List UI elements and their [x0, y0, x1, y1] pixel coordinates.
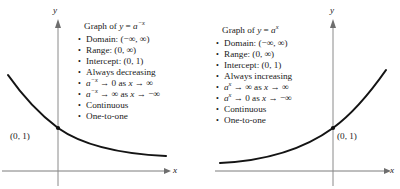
property-text: Domain: (−∞, ∞) — [86, 34, 149, 44]
list-item: •One-to-one — [78, 111, 160, 122]
bullet-icon: • — [216, 60, 219, 71]
y-axis-arrow-left — [55, 19, 61, 28]
list-item: •Domain: (−∞, ∞) — [78, 34, 160, 45]
property-text: Range: (0, ∞) — [224, 49, 274, 59]
bullet-icon: • — [216, 38, 219, 49]
panel-title-right: Graph of y = ax — [222, 25, 292, 36]
list-item: •ax → 0 as x → −∞ — [216, 93, 292, 104]
list-item: •Intercept: (0, 1) — [216, 60, 292, 71]
panel-title-left: Graph of y = a−x — [84, 21, 160, 32]
info-block-left: Graph of y = a−x •Domain: (−∞, ∞) •Range… — [78, 21, 160, 122]
panel-title-exp-right: x — [276, 23, 279, 30]
property-exp: −x — [91, 75, 98, 82]
bullet-icon: • — [216, 93, 219, 104]
bullet-icon: • — [78, 67, 81, 78]
property-text: Intercept: (0, 1) — [86, 56, 143, 66]
property-tail: → ∞ — [132, 78, 152, 88]
property-tail: → −∞ — [134, 89, 160, 99]
x-axis-label-right: x — [390, 165, 394, 175]
x-axis-label-left: x — [173, 165, 177, 175]
y-axis-label-right: y — [330, 5, 334, 15]
list-item: •Continuous — [78, 100, 160, 111]
panel-title-prefix-right: Graph of — [222, 25, 257, 35]
list-item: •Always increasing — [216, 71, 292, 82]
intercept-label-left: (0, 1) — [10, 131, 30, 141]
bullet-icon: • — [216, 82, 219, 93]
property-text: Range: (0, ∞) — [86, 45, 136, 55]
bullet-icon: • — [78, 45, 81, 56]
property-exp: −x — [91, 86, 98, 93]
property-text: Domain: (−∞, ∞) — [224, 38, 287, 48]
list-item: •a−x → ∞ as x → −∞ — [78, 89, 160, 100]
property-text: Always increasing — [224, 71, 292, 81]
bullet-icon: • — [78, 89, 81, 100]
property-tail: → ∞ — [268, 82, 288, 92]
property-mid: → ∞ as — [98, 89, 131, 99]
panel-title-eq-right: = — [261, 25, 271, 35]
property-text: Continuous — [224, 104, 266, 114]
list-item: •Range: (0, ∞) — [216, 49, 292, 60]
intercept-label-right: (0, 1) — [337, 131, 357, 141]
property-text: Intercept: (0, 1) — [224, 60, 281, 70]
bullet-icon: • — [78, 78, 81, 89]
figure-panel-left: Graph of y = a−x •Domain: (−∞, ∞) •Range… — [0, 0, 200, 189]
bullet-icon: • — [78, 111, 81, 122]
figure-panel-right: Graph of y = ax •Domain: (−∞, ∞) •Range:… — [200, 0, 400, 189]
panel-title-prefix-left: Graph of — [84, 21, 119, 31]
property-list-right: •Domain: (−∞, ∞) •Range: (0, ∞) •Interce… — [216, 38, 292, 126]
bullet-icon: • — [216, 71, 219, 82]
list-item: •One-to-one — [216, 115, 292, 126]
property-mid: → 0 as — [231, 93, 262, 103]
bullet-icon: • — [216, 49, 219, 60]
bullet-icon: • — [216, 104, 219, 115]
property-mid: → ∞ as — [231, 82, 264, 92]
x-axis-arrow-left — [164, 168, 171, 174]
y-axis-arrow-right — [330, 19, 336, 28]
property-mid: → 0 as — [98, 78, 129, 88]
panel-title-exp-left: −x — [138, 19, 145, 26]
bullet-icon: • — [216, 115, 219, 126]
list-item: •Domain: (−∞, ∞) — [216, 38, 292, 49]
list-item: •ax → ∞ as x → ∞ — [216, 82, 292, 93]
list-item: •Range: (0, ∞) — [78, 45, 160, 56]
property-tail: → −∞ — [266, 93, 292, 103]
property-text: One-to-one — [86, 111, 128, 121]
property-text: One-to-one — [224, 115, 266, 125]
panel-title-eq-left: = — [123, 21, 133, 31]
y-axis-label-left: y — [53, 5, 57, 15]
bullet-icon: • — [78, 34, 81, 45]
bullet-icon: • — [78, 100, 81, 111]
list-item: •Continuous — [216, 104, 292, 115]
intercept-point-left — [56, 126, 60, 130]
list-item: •Intercept: (0, 1) — [78, 56, 160, 67]
info-block-right: Graph of y = ax •Domain: (−∞, ∞) •Range:… — [216, 25, 292, 126]
bullet-icon: • — [78, 56, 81, 67]
property-list-left: •Domain: (−∞, ∞) •Range: (0, ∞) •Interce… — [78, 34, 160, 122]
intercept-point-right — [331, 126, 335, 130]
property-text: Continuous — [86, 100, 128, 110]
